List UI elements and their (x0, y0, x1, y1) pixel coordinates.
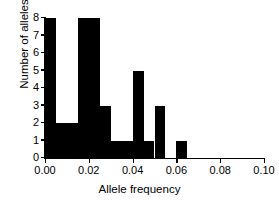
x-tick-mark (264, 159, 265, 163)
x-tick-label: 0.08 (200, 164, 240, 176)
y-tick-mark (41, 122, 45, 123)
histogram-bar (144, 141, 155, 159)
histogram-bar (176, 141, 187, 159)
histogram-bar (89, 18, 100, 158)
y-tick-label: 4 (21, 82, 39, 93)
x-tick-label: 0.06 (156, 164, 196, 176)
y-tick-label: 1 (21, 135, 39, 146)
y-tick-label: 2 (21, 117, 39, 128)
histogram-bar (133, 71, 144, 159)
y-tick-mark (41, 52, 45, 53)
histogram-bar (78, 18, 89, 158)
histogram-bar (67, 123, 78, 158)
y-tick-mark (41, 17, 45, 18)
y-tick-mark (41, 104, 45, 105)
y-tick-mark (41, 139, 45, 140)
y-tick-mark (41, 69, 45, 70)
histogram-bar (45, 18, 56, 158)
histogram-bar (122, 141, 133, 159)
x-tick-label: 0.00 (25, 164, 65, 176)
y-tick-label: 7 (21, 30, 39, 41)
y-tick-label: 3 (21, 100, 39, 111)
x-tick-mark (45, 159, 46, 163)
y-tick-label: 5 (21, 65, 39, 76)
histogram-bar (155, 106, 166, 159)
x-tick-mark (133, 159, 134, 163)
histogram-bar (56, 123, 67, 158)
x-tick-label: 0.10 (244, 164, 279, 176)
y-tick-mark (41, 87, 45, 88)
histogram-bar (111, 141, 122, 159)
y-tick-mark (41, 157, 45, 158)
y-tick-label: 6 (21, 47, 39, 58)
histogram-figure: Number of alleles 012345678 0.000.020.04… (0, 0, 279, 205)
x-tick-mark (176, 159, 177, 163)
x-tick-mark (89, 159, 90, 163)
histogram-bar (100, 106, 111, 159)
y-tick-label: 8 (21, 12, 39, 23)
x-tick-label: 0.02 (69, 164, 109, 176)
x-tick-label: 0.04 (113, 164, 153, 176)
y-tick-mark (41, 34, 45, 35)
y-tick-label: 0 (21, 152, 39, 163)
plot-area: 012345678 (45, 18, 264, 158)
x-axis-title: Allele frequency (0, 183, 279, 195)
x-tick-mark (220, 159, 221, 163)
